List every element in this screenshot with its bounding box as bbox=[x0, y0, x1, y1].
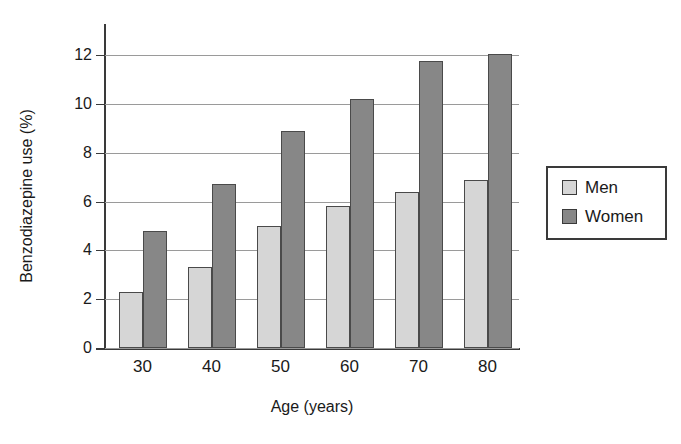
y-tick-mark bbox=[96, 250, 105, 251]
y-axis-title: Benzodiazepine use (%) bbox=[18, 46, 36, 346]
x-tick-label: 30 bbox=[133, 358, 152, 375]
bar-women-80 bbox=[488, 54, 512, 348]
legend-label-women: Women bbox=[585, 208, 643, 225]
legend-swatch-men-icon bbox=[562, 180, 577, 195]
gridline bbox=[105, 202, 519, 203]
bar-men-60 bbox=[326, 206, 350, 348]
bar-men-50 bbox=[257, 226, 281, 348]
y-tick-mark bbox=[96, 153, 105, 154]
legend-swatch-women-icon bbox=[562, 209, 577, 224]
gridline bbox=[105, 348, 519, 349]
gridline bbox=[105, 55, 519, 56]
y-tick-label: 2 bbox=[83, 291, 92, 307]
y-tick-mark bbox=[96, 299, 105, 300]
bar-women-60 bbox=[350, 99, 374, 348]
x-tick-label: 60 bbox=[340, 358, 359, 375]
bar-women-50 bbox=[281, 131, 305, 348]
x-tick-label: 50 bbox=[271, 358, 290, 375]
bar-women-30 bbox=[143, 231, 167, 348]
legend-item-women: Women bbox=[562, 208, 643, 225]
plot-area: 121086420 bbox=[105, 55, 519, 348]
gridline bbox=[105, 104, 519, 105]
bar-women-70 bbox=[419, 61, 443, 348]
bar-men-80 bbox=[464, 180, 488, 348]
y-tick-mark bbox=[96, 202, 105, 203]
y-tick-mark bbox=[96, 104, 105, 105]
x-tick-label: 40 bbox=[202, 358, 221, 375]
x-axis-title: Age (years) bbox=[105, 398, 519, 416]
y-tick-label: 8 bbox=[83, 145, 92, 161]
bar-men-70 bbox=[395, 192, 419, 348]
y-tick-label: 12 bbox=[74, 47, 92, 63]
gridline bbox=[105, 153, 519, 154]
gridline bbox=[105, 299, 519, 300]
y-tick-mark bbox=[96, 348, 105, 349]
y-tick-label: 4 bbox=[83, 242, 92, 258]
bar-men-40 bbox=[188, 267, 212, 348]
bar-women-40 bbox=[212, 184, 236, 348]
legend: Men Women bbox=[546, 166, 667, 240]
x-tick-label: 80 bbox=[478, 358, 497, 375]
legend-item-men: Men bbox=[562, 179, 618, 196]
y-tick-mark bbox=[96, 55, 105, 56]
benzodiazepine-use-bar-chart: 121086420 304050607080 Age (years) Benzo… bbox=[0, 0, 681, 444]
bar-men-30 bbox=[119, 292, 143, 348]
y-tick-label: 10 bbox=[74, 96, 92, 112]
legend-label-men: Men bbox=[585, 179, 618, 196]
x-tick-label: 70 bbox=[409, 358, 428, 375]
y-tick-label: 0 bbox=[83, 340, 92, 356]
gridline bbox=[105, 250, 519, 251]
y-tick-label: 6 bbox=[83, 194, 92, 210]
